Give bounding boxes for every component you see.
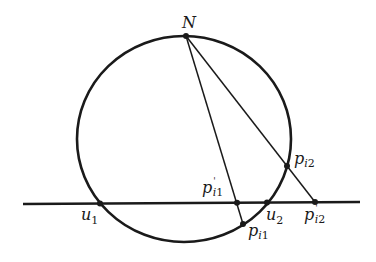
diagram-canvas: N u1 u2 p'i1 pi1 pi2 p'i2: [0, 0, 376, 262]
label-u1: u1: [81, 205, 98, 227]
point-p-prime-i1: [234, 200, 240, 206]
label-u2: u2: [266, 205, 283, 227]
label-p-prime-i1: p'i1: [202, 176, 223, 199]
label-p-i1: pi1: [248, 221, 269, 242]
point-p-i2: [284, 163, 290, 169]
point-N: [183, 33, 189, 39]
horizontal-line: [23, 202, 360, 204]
label-p-prime-i2: p'i2: [304, 203, 325, 226]
diagram-svg: N u1 u2 p'i1 pi1 pi2 p'i2: [0, 0, 376, 262]
point-u1: [97, 201, 103, 207]
point-p-i1: [240, 221, 246, 227]
circle: [77, 36, 291, 242]
label-p-i2: pi2: [294, 149, 315, 170]
label-N: N: [181, 13, 197, 32]
